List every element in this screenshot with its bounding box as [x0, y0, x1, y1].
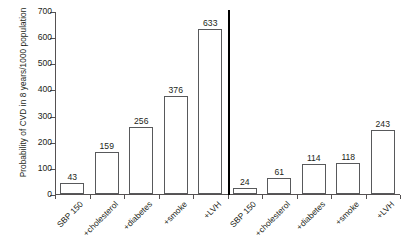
bar-value-label: 633: [203, 18, 217, 28]
x-axis-label-text: SBP 150: [55, 199, 85, 229]
y-axis-line: [55, 12, 56, 195]
x-axis-label-text: +LVH: [202, 199, 224, 221]
bar-value-label: 118: [341, 152, 355, 162]
bar-value-label: 61: [274, 167, 284, 177]
y-tick-label: 200: [38, 137, 52, 147]
y-tick-label: 400: [38, 84, 52, 94]
bar-chart: Probability of CVD in 8 years/1000 popul…: [0, 0, 404, 248]
bar-value-label: 24: [240, 177, 250, 187]
bar-value-label: 256: [134, 116, 148, 126]
bar-value-label: 114: [307, 153, 321, 163]
x-axis-label-text: +diabetes: [294, 199, 327, 232]
panel-divider: [228, 10, 230, 195]
bar-value-label: 376: [169, 85, 183, 95]
x-tick-mark: [55, 195, 56, 199]
bar-value-label: 43: [67, 172, 77, 182]
bar-value-label: 159: [100, 141, 114, 151]
bar: 43: [60, 183, 84, 194]
x-axis-label-text: +cholesterol: [81, 199, 120, 238]
y-tick-label: 700: [38, 6, 52, 16]
y-tick-label: 600: [38, 32, 52, 42]
x-axis-label-text: +LVH: [374, 199, 396, 221]
y-tick-label: 300: [38, 111, 52, 121]
y-tick-label: 100: [38, 163, 52, 173]
plot-area: 7006005004003002001000 43159256376633246…: [55, 12, 400, 195]
x-axis-label-text: +diabetes: [121, 199, 154, 232]
bar-value-label: 243: [376, 119, 390, 129]
x-axis-label-text: +smoke: [333, 199, 361, 227]
y-tick-label: 0: [47, 189, 52, 199]
y-tick-label: 500: [38, 58, 52, 68]
x-axis-label-text: +smoke: [161, 199, 189, 227]
x-axis-label-text: SBP 150: [227, 199, 257, 229]
bar: 633: [198, 29, 222, 194]
y-axis-title: Probability of CVD in 8 years/1000 popul…: [19, 0, 28, 188]
